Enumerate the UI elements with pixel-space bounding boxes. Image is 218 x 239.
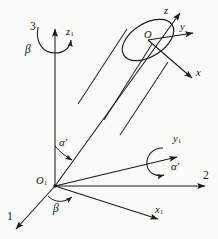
beta-top-label: β xyxy=(25,44,31,56)
alpha-left-label: α′ xyxy=(59,137,67,148)
axis-x-line xyxy=(148,40,192,78)
origin-O1-dot xyxy=(53,184,56,187)
origin-O1-label: O1 xyxy=(36,176,47,187)
axis-y-line xyxy=(148,33,193,40)
axis-x-label: x xyxy=(196,68,201,79)
origin-O-label: O xyxy=(144,30,152,41)
axis-x1-line xyxy=(55,186,158,219)
figure-canvas: 3 β z1 z y x O α′ y1 α′ 2 O1 β x1 1 xyxy=(0,0,218,239)
beta-bottom-angle-arc xyxy=(48,196,72,201)
axis-1-line xyxy=(16,186,55,229)
axis-y-label: y xyxy=(180,22,185,33)
axis-x1-label-sub: 1 xyxy=(160,208,163,215)
axis-z-label: z xyxy=(164,6,168,17)
alpha-right-label: α′ xyxy=(171,161,179,172)
axis-x1-label: x1 xyxy=(155,205,163,216)
axis-y1-label-text: y xyxy=(173,133,178,144)
axis-3-label: 3 xyxy=(30,21,36,33)
axis-y1-label: y1 xyxy=(173,134,181,145)
beta-bottom-label: β xyxy=(53,203,59,215)
alpha-left-angle-arc xyxy=(55,146,72,160)
axis-x1-label-text: x xyxy=(155,204,160,215)
diagram-vector-graphics xyxy=(0,0,218,239)
axis-2-label: 2 xyxy=(203,170,209,182)
axis-z1-label: z1 xyxy=(66,27,74,38)
axis-z1-label-sub: 1 xyxy=(70,30,73,37)
origin-O1-label-text: O xyxy=(36,175,44,186)
axis-y1-label-sub: 1 xyxy=(178,137,181,144)
axis-1-label: 1 xyxy=(7,211,13,223)
origin-O1-label-sub: 1 xyxy=(44,179,47,186)
cylinder-generator-lower xyxy=(120,62,168,135)
cylinder-generator-middle xyxy=(104,44,152,120)
cylinder-generator-upper xyxy=(78,29,127,104)
